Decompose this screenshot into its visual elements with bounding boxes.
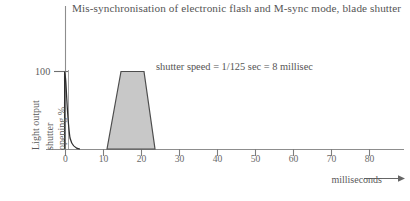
x-tick-label-60: 60 [289, 153, 299, 164]
shutter-opening-trapezoid [107, 72, 155, 150]
x-tick-label-80: 80 [365, 153, 375, 164]
figure-root: Mis-synchronisation of electronic flash … [0, 0, 410, 201]
x-tick-label-40: 40 [213, 153, 223, 164]
y-axis-label-opening-percent: opening % [56, 107, 67, 150]
x-axis-unit-label: milliseconds [331, 175, 382, 185]
page-caption-fragment [70, 192, 300, 201]
plot-area [0, 0, 410, 201]
x-tick-label-20: 20 [137, 153, 147, 164]
x-tick-label-30: 30 [175, 153, 185, 164]
y-axis-label-light-output: Light output [30, 100, 41, 150]
y-axis-label-shutter: shutter [44, 123, 55, 150]
y-tick-label-100: 100 [35, 67, 50, 77]
x-tick-label-50: 50 [251, 153, 261, 164]
shutter-speed-annotation: shutter speed = 1/125 sec = 8 millisec [156, 62, 313, 72]
x-tick-label-0: 0 [63, 153, 68, 164]
chart-title: Mis-synchronisation of electronic flash … [72, 3, 401, 14]
x-tick-label-10: 10 [99, 153, 109, 164]
x-tick-label-70: 70 [327, 153, 337, 164]
